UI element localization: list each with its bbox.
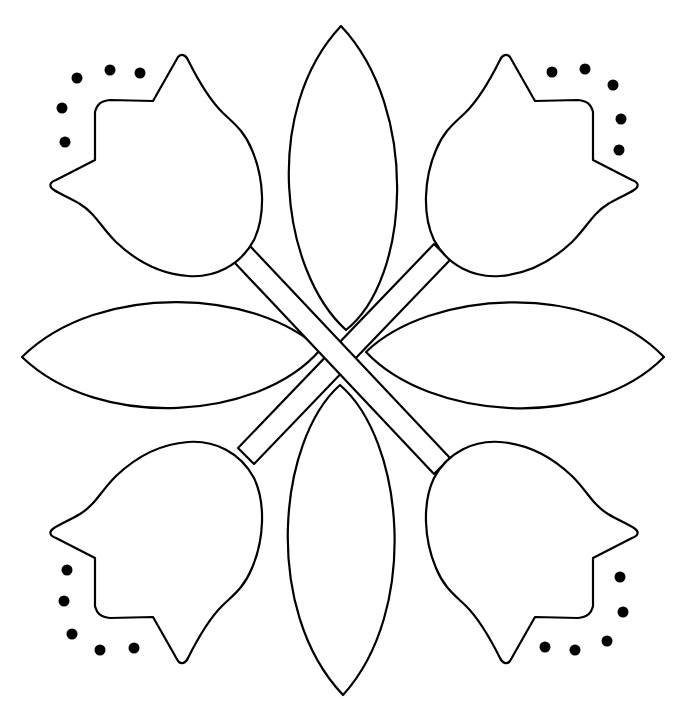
tulip-quilt-block	[0, 0, 688, 718]
tulip-top-left	[50, 55, 262, 276]
tulip-top-right	[426, 55, 638, 276]
leaf-right	[366, 302, 664, 408]
tulip-bottom-left	[50, 442, 262, 663]
leaf-bottom	[288, 385, 395, 695]
leaf-left	[22, 302, 320, 408]
tulip-bottom-right	[426, 442, 638, 663]
leaf-top	[289, 26, 397, 330]
